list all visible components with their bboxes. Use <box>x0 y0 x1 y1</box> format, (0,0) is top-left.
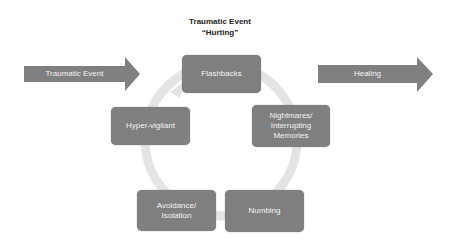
node-label: Avoidance/ Isolation <box>147 201 206 221</box>
node-numbing: Numbing <box>225 190 304 232</box>
node-nightmares: Nightmares/ Interrupting Memories <box>252 105 330 147</box>
node-avoidance: Avoidance/ Isolation <box>137 190 216 231</box>
node-flashbacks: Flashbacks <box>182 55 261 93</box>
diagram-title: Traumatic Event “Hurting” <box>150 16 290 38</box>
input-arrow-label: Traumatic Event <box>24 69 125 79</box>
node-label: Numbing <box>248 206 280 216</box>
node-label: Nightmares/ Interrupting Memories <box>260 111 322 141</box>
node-label: Flashbacks <box>201 69 241 79</box>
title-line-1: Traumatic Event <box>150 16 290 27</box>
title-line-2: “Hurting” <box>150 27 290 38</box>
node-label: Hyper-vigilant <box>126 121 175 131</box>
output-arrow-label: Healing <box>318 69 417 79</box>
node-hyper-vigilant: Hyper-vigilant <box>111 107 190 145</box>
